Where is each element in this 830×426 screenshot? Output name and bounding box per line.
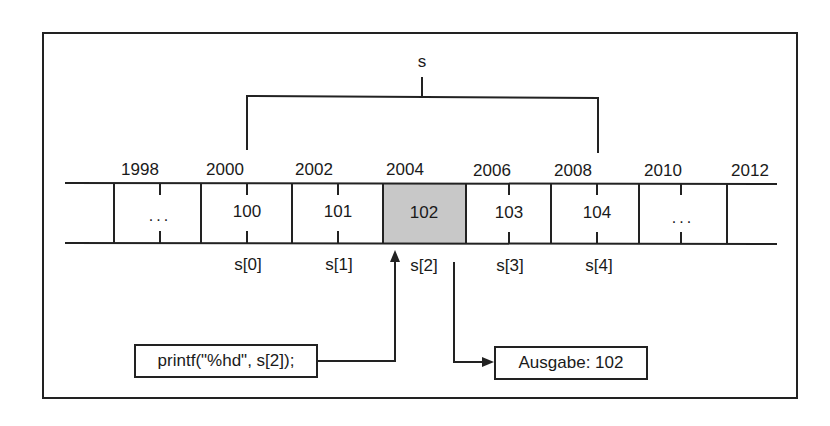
array-name-label: s bbox=[418, 52, 427, 72]
array-bracket bbox=[247, 77, 598, 153]
address-label: 2012 bbox=[731, 161, 769, 181]
arrow-up-icon bbox=[390, 250, 400, 262]
address-label: 2008 bbox=[554, 161, 592, 181]
index-label: s[0] bbox=[234, 255, 261, 275]
index-label: s[1] bbox=[325, 255, 352, 275]
cell-value: ... bbox=[149, 206, 171, 226]
address-label: 2004 bbox=[386, 160, 424, 180]
cell-value: ... bbox=[672, 208, 694, 228]
arrow-right-icon bbox=[482, 357, 494, 367]
address-label: 2006 bbox=[473, 161, 511, 181]
output-box: Ausgabe: 102 bbox=[494, 346, 648, 380]
output-arrow bbox=[454, 262, 484, 362]
cell-value: 104 bbox=[583, 203, 611, 223]
index-label: s[4] bbox=[585, 256, 612, 276]
code-box: printf("%hd", s[2]); bbox=[134, 344, 318, 378]
address-label: 2000 bbox=[206, 160, 244, 180]
address-label: 2002 bbox=[295, 160, 333, 180]
address-label: 1998 bbox=[121, 160, 159, 180]
cell-value: 103 bbox=[495, 203, 523, 223]
address-label: 2010 bbox=[644, 161, 682, 181]
cell-value: 101 bbox=[324, 202, 352, 222]
cell-value: 100 bbox=[233, 202, 261, 222]
cell-value-highlighted: 102 bbox=[410, 203, 438, 223]
index-label: s[2] bbox=[410, 256, 437, 276]
index-label: s[3] bbox=[496, 256, 523, 276]
